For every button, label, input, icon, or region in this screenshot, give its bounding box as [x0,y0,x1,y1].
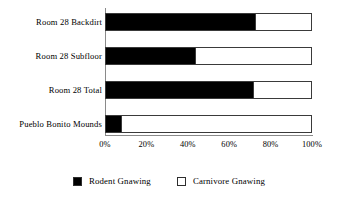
x-tick-20: 20% [124,139,168,151]
category-label-room-28-total: Room 28 Total [2,81,102,99]
bar-track [105,81,312,99]
bar-segment-divider [121,116,122,132]
bar-segment-rodent-gnawing [106,82,254,98]
bar-row-room-28-subfloor [105,47,312,65]
x-tick-40: 40% [166,139,210,151]
legend-swatch-hollow-icon [177,177,186,186]
legend-swatch-filled-icon [73,177,82,186]
bar-segment-rodent-gnawing [106,48,196,64]
bar-row-room-28-backdirt [105,13,312,31]
bar-track [105,47,312,65]
legend-label-carnivore-gnawing: Carnivore Gnawing [193,176,265,186]
bar-segment-divider [195,48,196,64]
legend-label-rodent-gnawing: Rodent Gnawing [89,176,151,186]
plot-area [105,8,312,135]
stacked-bar-chart: Room 28 Backdirt Room 28 Subfloor Room 2… [0,0,338,204]
bar-segment-rodent-gnawing [106,116,122,132]
category-axis-labels: Room 28 Backdirt Room 28 Subfloor Room 2… [0,8,102,135]
x-tick-60: 60% [207,139,251,151]
legend-entry-rodent-gnawing: Rodent Gnawing [73,176,151,186]
chart-legend: Rodent Gnawing Carnivore Gnawing [0,172,338,190]
x-tick-100: 100% [290,139,334,151]
value-axis-tick-labels: 0% 20% 40% 60% 80% 100% [0,139,338,153]
legend-entry-carnivore-gnawing: Carnivore Gnawing [177,176,265,186]
value-axis-line [105,135,313,136]
bar-row-room-28-total [105,81,312,99]
x-tick-0: 0% [83,139,127,151]
bar-track [105,115,312,133]
category-label-pueblo-bonito-mounds: Pueblo Bonito Mounds [2,115,102,133]
x-tick-80: 80% [249,139,293,151]
bar-segment-divider [253,82,254,98]
category-label-room-28-backdirt: Room 28 Backdirt [2,13,102,31]
category-label-room-28-subfloor: Room 28 Subfloor [2,47,102,65]
bar-segment-divider [255,14,256,30]
bar-segment-rodent-gnawing [106,14,256,30]
bar-track [105,13,312,31]
bar-row-pueblo-bonito-mounds [105,115,312,133]
